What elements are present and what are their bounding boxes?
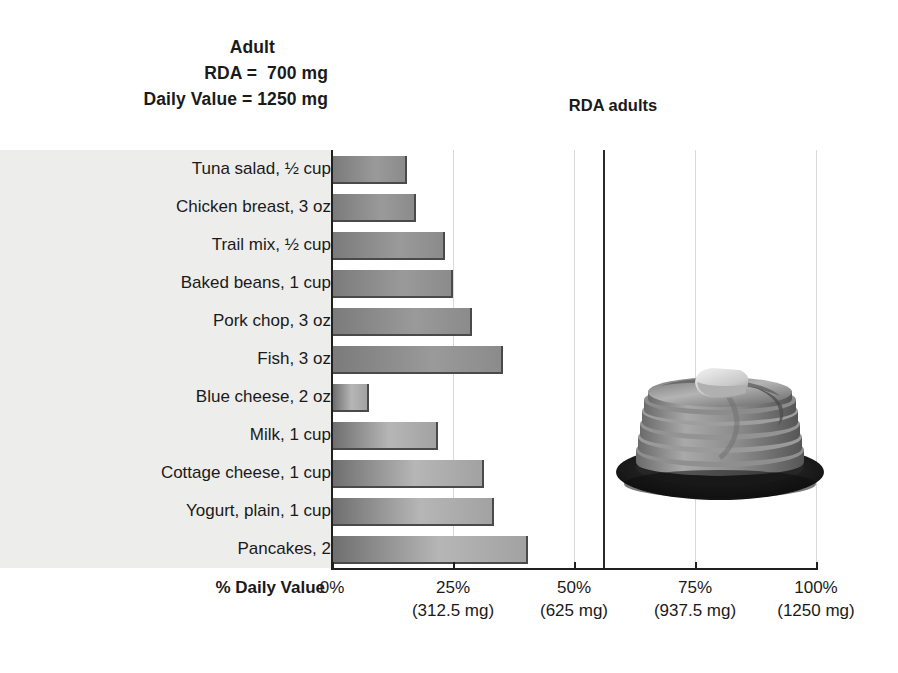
category-label: Tuna salad, ½ cup — [71, 150, 331, 188]
bar-row: Pork chop, 3 oz — [0, 302, 898, 340]
x-tick-label-percent: 50% — [509, 576, 639, 599]
x-tick — [574, 562, 576, 570]
header-rda-line: RDA = 700 mg — [0, 60, 330, 86]
category-label: Yogurt, plain, 1 cup — [71, 492, 331, 530]
x-tick — [695, 562, 697, 570]
bar — [333, 194, 416, 222]
bar — [333, 270, 453, 298]
x-tick-label: 50%(625 mg) — [509, 576, 639, 622]
category-label: Cottage cheese, 1 cup — [71, 454, 331, 492]
bar — [333, 346, 503, 374]
rda-adults-annotation: RDA adults — [528, 96, 698, 115]
x-tick-label-mg: (312.5 mg) — [388, 599, 518, 622]
bar — [333, 422, 438, 450]
bar — [333, 498, 494, 526]
header-adult-label: Adult — [0, 34, 330, 60]
x-tick-label: 0% — [267, 576, 397, 599]
bar — [333, 308, 472, 336]
x-tick-label-percent: 75% — [630, 576, 760, 599]
bar-row: Pancakes, 2 — [0, 530, 898, 568]
pancake-stack-photo — [600, 366, 840, 506]
bar-row: Trail mix, ½ cup — [0, 226, 898, 264]
x-tick-label-mg: (1250 mg) — [751, 599, 881, 622]
bar-row: Chicken breast, 3 oz — [0, 188, 898, 226]
bar — [333, 156, 407, 184]
bar — [333, 536, 528, 564]
bar — [333, 232, 445, 260]
bar — [333, 460, 484, 488]
bar-row: Baked beans, 1 cup — [0, 264, 898, 302]
bar — [333, 384, 369, 412]
header-daily-value-line: Daily Value = 1250 mg — [0, 86, 330, 112]
category-label: Trail mix, ½ cup — [71, 226, 331, 264]
bar-row: Tuna salad, ½ cup — [0, 150, 898, 188]
x-tick-label-percent: 100% — [751, 576, 881, 599]
category-label: Milk, 1 cup — [71, 416, 331, 454]
x-tick — [332, 562, 334, 570]
x-tick-label-percent: 25% — [388, 576, 518, 599]
x-tick-label: 75%(937.5 mg) — [630, 576, 760, 622]
category-label: Fish, 3 oz — [71, 340, 331, 378]
category-label: Baked beans, 1 cup — [71, 264, 331, 302]
x-tick-label-mg: (937.5 mg) — [630, 599, 760, 622]
x-tick-label: 100%(1250 mg) — [751, 576, 881, 622]
x-tick-label-mg: (625 mg) — [509, 599, 639, 622]
category-label: Blue cheese, 2 oz — [71, 378, 331, 416]
category-label: Pork chop, 3 oz — [71, 302, 331, 340]
x-tick-label-percent: 0% — [267, 576, 397, 599]
x-tick — [816, 562, 818, 570]
header-block: Adult RDA = 700 mg Daily Value = 1250 mg — [0, 34, 330, 112]
chart-root: Adult RDA = 700 mg Daily Value = 1250 mg… — [0, 0, 898, 673]
x-tick-label: 25%(312.5 mg) — [388, 576, 518, 622]
x-tick — [453, 562, 455, 570]
category-label: Chicken breast, 3 oz — [71, 188, 331, 226]
category-label: Pancakes, 2 — [71, 530, 331, 568]
